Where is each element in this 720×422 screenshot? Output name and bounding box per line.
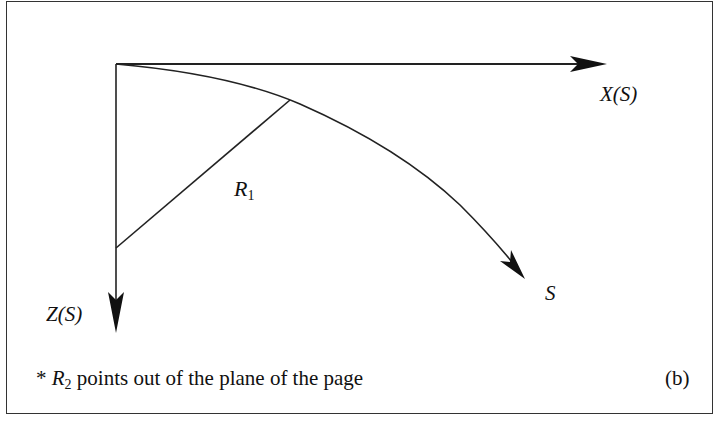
r1-label-subscript: 1 (247, 188, 254, 203)
s-curve (116, 64, 512, 262)
x-axis-label-text: X(S) (600, 82, 637, 106)
footnote-asterisk: * (36, 366, 52, 390)
s-curve-label: S (545, 283, 556, 304)
r1-radius-line (116, 100, 290, 248)
footnote-symbol-subscript: 2 (65, 377, 72, 392)
footnote-text: points out of the plane of the page (72, 366, 364, 390)
z-axis-label: Z(S) (46, 304, 82, 325)
r1-label-main: R (234, 176, 247, 201)
panel-tag: (b) (665, 368, 690, 389)
s-curve-arrowhead-icon (500, 250, 525, 279)
footnote: * R2 points out of the plane of the page (36, 368, 363, 392)
footnote-symbol: R (52, 366, 65, 390)
s-curve-label-text: S (545, 281, 556, 305)
x-axis-label: X(S) (600, 84, 637, 105)
z-axis-label-text: Z(S) (46, 302, 82, 326)
diagram-canvas (0, 0, 720, 422)
r1-label: R1 (234, 178, 254, 203)
